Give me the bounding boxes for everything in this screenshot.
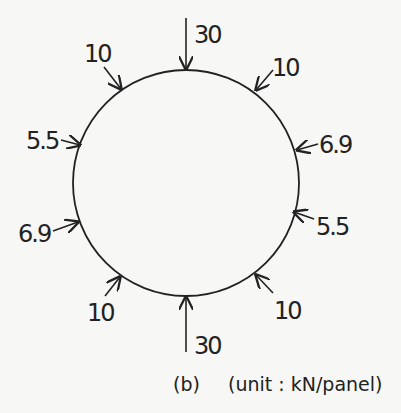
load-left-lower: 6.9: [18, 220, 78, 248]
arrow-icon: [61, 140, 80, 145]
load-value-top-left: 10: [84, 40, 111, 68]
ring-load-diagram: 30 10 10 5.5 6.9 6.9 5.5 10 10: [0, 0, 401, 413]
arrow-icon: [256, 275, 273, 293]
arrow-icon: [104, 67, 121, 89]
load-value-bottom-right: 10: [274, 297, 301, 325]
ring-circle: [73, 70, 299, 296]
load-right-lower: 5.5: [294, 212, 349, 241]
load-value-top-right: 10: [272, 54, 299, 82]
arrow-icon: [294, 212, 314, 219]
load-left-upper: 5.5: [26, 127, 80, 155]
arrow-icon: [105, 277, 120, 296]
load-top-left: 10: [84, 40, 121, 89]
load-value-left-upper: 5.5: [26, 127, 59, 155]
panel-label: (b): [173, 373, 200, 395]
load-value-bottom: 30: [194, 332, 221, 360]
load-top: 30: [186, 18, 221, 69]
load-value-right-upper: 6.9: [319, 131, 352, 159]
load-value-top: 30: [194, 21, 221, 49]
arrow-icon: [256, 70, 273, 90]
load-value-left-lower: 6.9: [18, 220, 51, 248]
load-bottom: 30: [186, 297, 221, 360]
load-right-upper: 6.9: [297, 131, 352, 159]
arrow-icon: [297, 144, 318, 150]
load-top-right: 10: [256, 54, 299, 90]
load-value-bottom-left: 10: [87, 299, 114, 327]
load-value-right-lower: 5.5: [316, 213, 349, 241]
load-bottom-left: 10: [87, 277, 120, 327]
arrow-icon: [53, 222, 78, 231]
load-bottom-right: 10: [256, 275, 301, 325]
unit-note: (unit : kN/panel): [228, 373, 382, 395]
